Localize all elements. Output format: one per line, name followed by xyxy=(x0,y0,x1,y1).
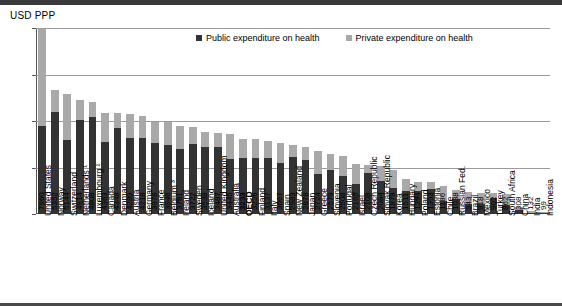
x-axis-label: Russian Fed. xyxy=(458,166,467,216)
x-axis-label: Netherlands ¹ xyxy=(82,165,91,216)
x-axis-label: China xyxy=(521,194,530,216)
x-axis-label: Spain xyxy=(283,194,292,216)
x-axis-label: Czech Republic xyxy=(370,156,379,216)
bar-segment-private xyxy=(114,113,122,128)
y-axis-title: USD PPP xyxy=(10,10,55,21)
x-axis-label: Turkey xyxy=(496,190,505,216)
x-axis-label: Brazil xyxy=(471,195,480,216)
x-axis-label: Slovak Republic xyxy=(383,155,392,216)
x-axis-label: Denmark xyxy=(120,182,129,216)
bar-segment-private xyxy=(189,127,197,144)
x-axis-label: New Zealand xyxy=(295,166,304,216)
bar-segment-private xyxy=(264,141,272,158)
x-axis-label: Norway xyxy=(57,187,66,216)
bar-segment-private xyxy=(139,116,147,139)
bar-segment-private xyxy=(126,114,134,138)
bar-segment-private xyxy=(302,147,310,160)
bar-segment-private xyxy=(201,132,209,147)
x-axis-label: Germany xyxy=(145,181,154,216)
x-axis-label: Australia xyxy=(232,183,241,216)
bar-segment-private xyxy=(214,133,222,147)
health-expenditure-chart: USD PPP Public expenditure on health Pri… xyxy=(0,0,562,306)
x-axis-label: Indonesia xyxy=(546,179,555,216)
x-axis-label: Poland xyxy=(421,190,430,216)
bar-segment-private xyxy=(38,29,46,126)
x-axis-label: Finland xyxy=(258,188,267,216)
x-axis-label: United Kingdom xyxy=(220,156,229,216)
bar-segment-private xyxy=(89,102,97,117)
top-scan-band xyxy=(0,0,562,5)
bar-segment-private xyxy=(277,143,285,163)
bar-segment-private xyxy=(289,145,297,158)
bar-segment-private xyxy=(339,156,347,176)
bar-segment-private xyxy=(76,100,84,121)
x-axis-label: Hungary xyxy=(408,184,417,216)
x-axis-label: Austria xyxy=(132,190,141,216)
x-axis-label: Luxembourg ² xyxy=(95,164,104,216)
x-axis-label: Mexico xyxy=(483,189,492,216)
x-axis-label: Slovenia xyxy=(333,183,342,216)
x-axis-label: Greece xyxy=(320,188,329,216)
x-axis-label: Ireland xyxy=(182,190,191,216)
bar-segment-private xyxy=(63,94,71,140)
x-axis-label: Switzerland xyxy=(70,172,79,216)
x-axis-label: Sweden xyxy=(195,185,204,216)
x-axis-label: OECD xyxy=(245,191,254,216)
x-axis-label: India xyxy=(533,198,542,216)
bar-segment-private xyxy=(151,122,159,143)
x-axis-label: South Africa xyxy=(508,170,517,216)
x-axis-label: Portugal xyxy=(345,184,354,216)
x-axis-label: Korea xyxy=(395,193,404,216)
x-axis-label: Iceland xyxy=(207,189,216,216)
bar-segment-private xyxy=(352,164,360,184)
x-axis-label: Chile xyxy=(446,197,455,216)
x-axis-label: Canada xyxy=(107,186,116,216)
bar-segment-private xyxy=(314,151,322,174)
x-axis-label: France xyxy=(157,190,166,216)
y-tick-mark xyxy=(32,214,36,215)
x-axis-label: Japan xyxy=(308,193,317,216)
bar-segment-private xyxy=(164,122,172,145)
bar-segment-private xyxy=(176,126,184,149)
x-axis-label: Belgium ³ xyxy=(170,180,179,216)
x-axis-label: Israel xyxy=(358,195,367,216)
x-axis-labels: United StatesNorwaySwitzerlandNetherland… xyxy=(36,216,550,304)
x-axis-label: Estonia xyxy=(433,188,442,216)
bar-segment-private xyxy=(252,139,260,158)
bar-segment-private xyxy=(101,113,109,143)
x-axis-label: United States xyxy=(44,165,53,216)
x-axis-label: Italy xyxy=(270,200,279,216)
bar-segment-private xyxy=(327,154,335,170)
bar-segment-private xyxy=(239,139,247,158)
bar-segment-private xyxy=(51,90,59,112)
